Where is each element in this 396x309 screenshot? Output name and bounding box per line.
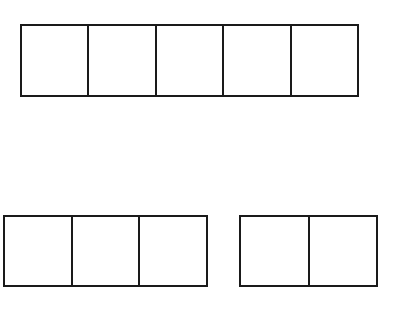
bottom-left-strip <box>3 215 208 287</box>
box-cell <box>310 217 377 285</box>
box-cell <box>89 26 156 95</box>
box-cell <box>241 217 310 285</box>
box-cell <box>157 26 224 95</box>
box-cell <box>292 26 357 95</box>
box-cell <box>224 26 291 95</box>
top-strip <box>20 24 359 97</box>
box-cell <box>73 217 141 285</box>
bottom-right-strip <box>239 215 378 287</box>
box-cell <box>140 217 206 285</box>
box-cell <box>22 26 89 95</box>
box-cell <box>5 217 73 285</box>
